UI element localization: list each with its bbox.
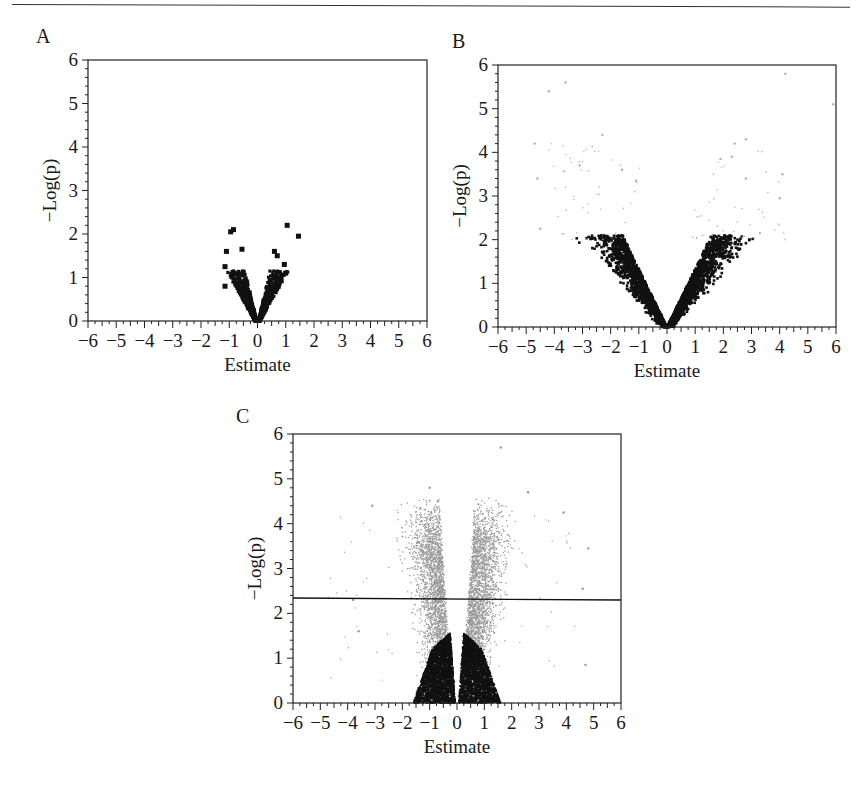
- x-tick-label: 3: [534, 712, 544, 733]
- data-points: [328, 446, 590, 704]
- x-tick-label: −5: [310, 712, 330, 733]
- x-tick-label: 1: [480, 712, 490, 733]
- x-tick-label: −2: [392, 712, 412, 733]
- y-axis: 0123456−Log(p): [244, 423, 293, 713]
- volcano-plot-c: −6−5−4−3−2−10123456Estimate0123456−Log(p…: [0, 0, 862, 789]
- plot-area: −6−5−4−3−2−10123456Estimate0123456−Log(p…: [244, 423, 626, 757]
- y-axis-label: −Log(p): [244, 537, 266, 600]
- x-axis: −6−5−4−3−2−10123456Estimate: [283, 703, 626, 757]
- x-tick-label: −6: [283, 712, 303, 733]
- y-tick-label: 6: [274, 423, 284, 444]
- x-tick-label: 2: [507, 712, 517, 733]
- x-tick-label: 5: [589, 712, 599, 733]
- y-tick-label: 5: [274, 468, 284, 489]
- x-tick-label: −4: [338, 712, 359, 733]
- y-tick-label: 0: [274, 692, 284, 713]
- x-tick-label: 4: [562, 712, 572, 733]
- y-tick-label: 1: [274, 647, 284, 668]
- x-tick-label: −1: [420, 712, 440, 733]
- plot-frame: [293, 434, 621, 703]
- x-tick-label: −3: [365, 712, 385, 733]
- y-tick-label: 4: [274, 513, 284, 534]
- x-tick-label: 6: [616, 712, 626, 733]
- x-axis-label: Estimate: [424, 736, 490, 757]
- threshold-line: [293, 598, 621, 600]
- x-tick-label: 0: [452, 712, 462, 733]
- y-tick-label: 2: [274, 602, 284, 623]
- y-tick-label: 3: [274, 558, 284, 579]
